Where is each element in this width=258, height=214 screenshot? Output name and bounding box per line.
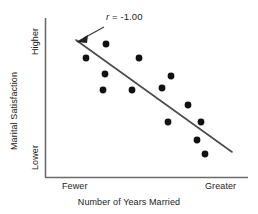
regression-line	[76, 40, 232, 152]
data-point	[185, 102, 192, 109]
regression-line-group	[76, 40, 232, 152]
y-axis-title: Marital Satisfaction	[10, 72, 20, 150]
correlation-value: = -1.00	[109, 11, 142, 22]
annotation-arrow-head	[76, 35, 88, 43]
data-point	[194, 137, 201, 144]
axes-group	[45, 18, 248, 178]
annotation-arrow	[76, 27, 104, 43]
data-point	[100, 87, 107, 94]
x-axis-high-label: Greater	[205, 182, 236, 192]
x-axis-low-label: Fewer	[62, 182, 88, 192]
data-point	[129, 87, 136, 94]
correlation-annotation: r = -1.00	[106, 12, 143, 22]
data-point	[202, 151, 209, 158]
data-point	[102, 71, 109, 78]
scatter-plot-figure: r = -1.00 Fewer Greater Number of Years …	[0, 0, 258, 214]
data-point	[168, 73, 175, 80]
data-point	[83, 55, 90, 62]
data-point	[136, 55, 143, 62]
x-axis-title: Number of Years Married	[0, 198, 258, 208]
data-point	[165, 119, 172, 126]
y-axis-high-label: Higher	[31, 28, 41, 55]
data-point	[103, 41, 110, 48]
data-point	[159, 85, 166, 92]
y-axis-low-label: Lower	[31, 145, 41, 170]
data-point	[198, 119, 205, 126]
